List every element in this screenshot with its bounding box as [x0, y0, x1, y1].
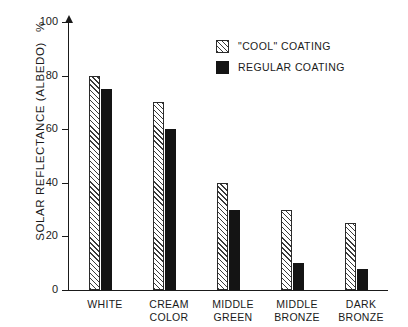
- category-label-line: DARK: [306, 298, 408, 311]
- y-axis-title: SOLAR REFLECTANCE (ALBEDO)%: [34, 6, 46, 256]
- y-axis-tick-label: 100: [40, 15, 58, 27]
- y-axis-tick-label: 40: [46, 176, 58, 188]
- x-axis-line: [68, 290, 388, 291]
- y-axis-tick-label: 0: [52, 283, 58, 295]
- y-axis-tick-label: 20: [46, 229, 58, 241]
- bar-regular-coating: [165, 129, 176, 290]
- x-axis-category-label: DARKBRONZE: [306, 298, 408, 323]
- legend-item: REGULAR COATING: [216, 59, 345, 75]
- bar-cool-coating: [281, 210, 292, 290]
- bar-cool-coating: [345, 223, 356, 290]
- y-axis-tick-label: 80: [46, 69, 58, 81]
- y-axis-title-text: SOLAR REFLECTANCE (ALBEDO): [34, 42, 46, 241]
- solid-square-icon: [216, 61, 229, 74]
- legend-item: "COOL" COATING: [216, 38, 345, 54]
- bar-chart: SOLAR REFLECTANCE (ALBEDO)% 020406080100…: [0, 0, 408, 327]
- hatched-square-icon: [216, 40, 229, 53]
- bar-regular-coating: [357, 269, 368, 290]
- bar-cool-coating: [217, 183, 228, 290]
- bar-regular-coating: [229, 210, 240, 290]
- bar-regular-coating: [293, 263, 304, 290]
- chart-legend: "COOL" COATINGREGULAR COATING: [216, 38, 345, 80]
- legend-item-label: REGULAR COATING: [238, 61, 345, 73]
- legend-item-label: "COOL" COATING: [238, 40, 331, 52]
- bar-cool-coating: [89, 76, 100, 290]
- y-axis-tick-label: 60: [46, 122, 58, 134]
- bar-cool-coating: [153, 102, 164, 290]
- category-label-line: BRONZE: [306, 311, 408, 324]
- bar-regular-coating: [101, 89, 112, 290]
- y-axis-tick-mark: [62, 290, 68, 291]
